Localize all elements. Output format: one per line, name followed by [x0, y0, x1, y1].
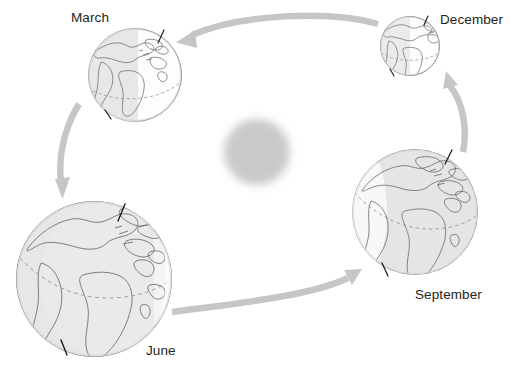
arrow-september-to-december: [443, 71, 465, 152]
arrow-december-to-march: [176, 16, 378, 48]
label-september: September: [415, 287, 482, 302]
arrow-june-to-september: [172, 269, 362, 312]
arrow-march-to-june: [55, 104, 79, 199]
globe-september: [343, 145, 480, 285]
label-december: December: [440, 12, 503, 27]
diagram-canvas: [0, 0, 519, 377]
globe-march: [60, 20, 183, 140]
label-march: March: [71, 10, 109, 25]
label-june: June: [146, 343, 176, 358]
orbit-diagram: March December June September: [0, 0, 519, 377]
sun: [224, 119, 290, 185]
